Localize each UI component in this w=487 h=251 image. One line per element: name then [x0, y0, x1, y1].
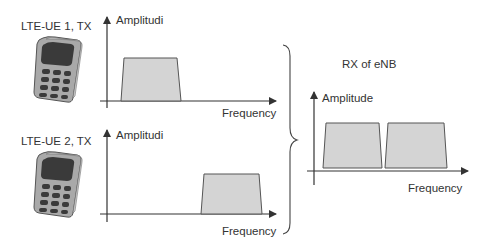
ue2-band [201, 174, 262, 214]
diagram-canvas [0, 0, 487, 251]
ue1-x-axis-label: Frequency [222, 108, 276, 120]
enb-spectrum-chart [307, 92, 468, 185]
ue1-band [121, 58, 181, 101]
ue1-y-axis-label: Amplitudi [116, 15, 163, 27]
ue2-phone-icon [34, 152, 82, 217]
enb-band-ue1 [323, 123, 382, 168]
combine-brace [283, 45, 297, 234]
ue1-phone-icon [34, 37, 82, 103]
enb-band-ue2 [385, 123, 447, 168]
ue1-label: LTE-UE 1, TX [21, 21, 92, 33]
ue1-spectrum-chart [100, 17, 276, 108]
enb-y-axis-label: Amplitude [322, 93, 373, 105]
enb-x-axis-label: Frequency [408, 183, 462, 195]
ue2-spectrum-chart [100, 130, 276, 222]
ue2-label: LTE-UE 2, TX [21, 136, 92, 148]
enb-label: RX of eNB [342, 59, 396, 71]
ue2-x-axis-label: Frequency [222, 226, 276, 238]
ue2-y-axis-label: Amplitudi [116, 130, 163, 142]
